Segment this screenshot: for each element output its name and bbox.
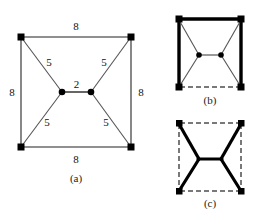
panel-a-edge-upper-left-diagonal: [21, 37, 62, 92]
panel-a-terminal-top-left: [18, 34, 25, 41]
panel-a-steiner-point-left: [59, 89, 66, 96]
panel-a-steiner-point-right: [88, 89, 95, 96]
panel-b-terminal-bottom-left: [176, 84, 183, 91]
panel-b-steiner-point-left: [196, 52, 202, 58]
panel-c-terminal-top-right: [238, 120, 245, 127]
panel-c-terminal-bottom-left: [176, 188, 183, 195]
panel-b-caption: (b): [204, 94, 217, 107]
panel-b-edge-lower-left-diagonal: [179, 55, 199, 87]
panel-c-terminal-bottom-right: [238, 188, 245, 195]
panel-a-caption: (a): [70, 172, 83, 185]
panel-b-edge-lower-right-diagonal: [221, 55, 241, 87]
panel-c-edge-lower-right-diagonal: [221, 159, 241, 191]
panel-c-edge-upper-right-diagonal: [221, 124, 241, 159]
panel-a-label-lower-left-diagonal: 5: [44, 116, 50, 128]
panel-a-label-center: 2: [74, 78, 80, 90]
panel-b-steiner-point-right: [218, 52, 224, 58]
panel-a-edge-lower-right-diagonal: [91, 92, 131, 147]
panel-a-label-left: 8: [9, 86, 15, 98]
panel-b-terminal-bottom-right: [238, 84, 245, 91]
panel-a: 8 8 8 8 5 5 5 5 2 (a): [9, 20, 144, 185]
panel-a-label-upper-right-diagonal: 5: [101, 56, 107, 68]
panel-a-label-lower-right-diagonal: 5: [103, 116, 109, 128]
panel-a-label-right: 8: [138, 86, 144, 98]
panel-a-label-upper-left-diagonal: 5: [46, 56, 52, 68]
panel-b-edge-upper-left-diagonal: [179, 20, 199, 55]
panel-a-terminal-top-right: [128, 34, 135, 41]
panel-c-edge-upper-left-diagonal: [179, 124, 199, 159]
panel-a-label-bottom: 8: [73, 153, 79, 165]
panel-b-terminal-top-right: [238, 16, 245, 23]
panel-c-caption: (c): [204, 197, 217, 210]
panel-b-edge-upper-right-diagonal: [221, 20, 241, 55]
panel-c-terminal-top-left: [176, 120, 183, 127]
panel-a-terminal-bottom-right: [128, 144, 135, 151]
panel-a-terminal-bottom-left: [18, 144, 25, 151]
panel-b-terminal-top-left: [176, 16, 183, 23]
panel-a-edge-upper-right-diagonal: [91, 37, 131, 92]
panel-c-edge-lower-left-diagonal: [179, 159, 199, 191]
panel-a-edge-lower-left-diagonal: [21, 92, 62, 147]
panel-a-label-top: 8: [73, 20, 79, 32]
steiner-tree-figure: 8 8 8 8 5 5 5 5 2 (a): [0, 0, 257, 212]
panel-c: (c): [176, 120, 245, 210]
panel-b: (b): [176, 16, 245, 108]
figure-container: 8 8 8 8 5 5 5 5 2 (a): [0, 0, 257, 212]
